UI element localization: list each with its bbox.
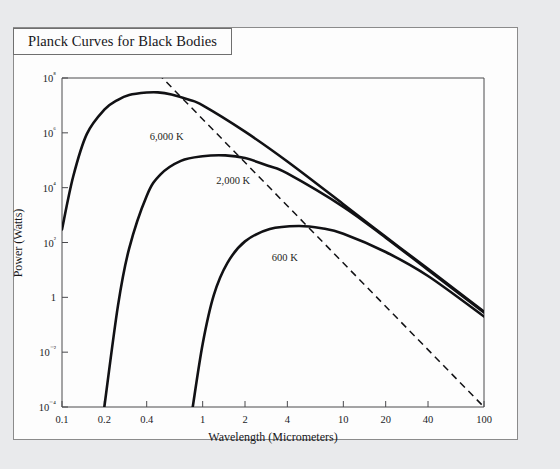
y-tick-label: 10⁸: [28, 73, 56, 84]
y-tick-label: 10⁴: [28, 182, 56, 193]
axis-frame: [62, 78, 484, 407]
x-tick-label: 100: [476, 414, 492, 425]
curve-label: 600 K: [272, 252, 298, 263]
x-tick-label: 4: [285, 414, 290, 425]
x-tick-label: 1: [200, 414, 205, 425]
x-tick-label: 2: [242, 414, 247, 425]
planck-curve: [193, 226, 484, 407]
y-axis-title: Power (Watts): [11, 209, 26, 278]
planck-curves-chart: [0, 0, 560, 469]
planck-curve: [62, 92, 484, 312]
x-tick-label: 0.1: [55, 414, 68, 425]
x-tick-label: 20: [380, 414, 391, 425]
y-tick-label: 10⁻²: [28, 347, 56, 358]
figure-page: Planck Curves for Black Bodies Power (Wa…: [0, 0, 560, 469]
x-tick-label: 40: [423, 414, 434, 425]
y-tick-label: 1: [28, 292, 56, 303]
y-tick-label: 10²: [28, 237, 56, 248]
planck-curve: [104, 155, 484, 407]
x-tick-label: 0.2: [98, 414, 111, 425]
curve-label: 6,000 K: [150, 131, 184, 142]
y-tick-label: 10⁶: [28, 127, 56, 138]
axis-ticks: [62, 78, 484, 407]
y-tick-label: 10⁻⁴: [28, 402, 56, 413]
x-axis-title: Wavelength (Micrometers): [208, 430, 337, 445]
x-tick-label: 10: [338, 414, 349, 425]
x-tick-label: 0.4: [140, 414, 153, 425]
curve-label: 2,000 K: [216, 175, 250, 186]
curve-group: [62, 92, 484, 407]
